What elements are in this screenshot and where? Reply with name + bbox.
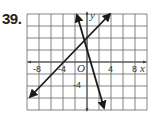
coordinate-graph: -8 -4 4 8 -4 O x y <box>0 0 153 114</box>
origin-label: O <box>77 62 85 74</box>
x-tick-neg4: -4 <box>58 64 66 74</box>
y-tick-neg4: -4 <box>73 80 81 90</box>
x-tick-neg8: -8 <box>33 64 41 74</box>
x-axis-label: x <box>139 62 145 74</box>
y-axis-label: y <box>89 9 95 21</box>
x-tick-4: 4 <box>108 64 113 74</box>
x-tick-8: 8 <box>132 64 137 74</box>
